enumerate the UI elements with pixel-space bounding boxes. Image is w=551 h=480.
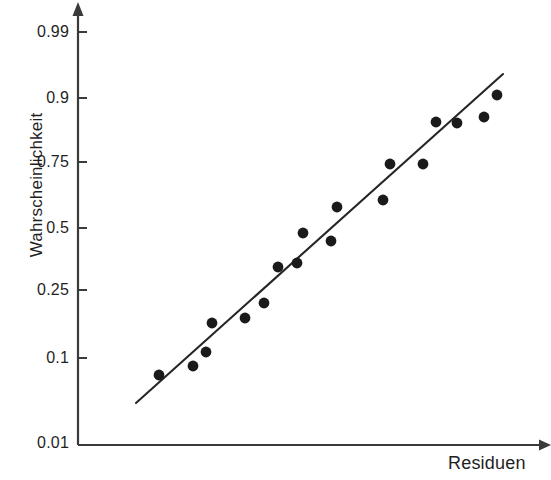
- data-point-2: [201, 347, 212, 358]
- y-tick-label-0.9: 0.9: [46, 90, 69, 106]
- data-point-9: [326, 236, 337, 247]
- y-tick-label-0.01: 0.01: [37, 435, 69, 451]
- data-point-7: [292, 258, 303, 269]
- data-point-11: [378, 195, 389, 206]
- data-point-4: [240, 313, 251, 324]
- data-point-6: [273, 262, 284, 273]
- data-point-15: [452, 118, 463, 129]
- data-point-17: [492, 90, 503, 101]
- data-point-3: [207, 318, 218, 329]
- probability-plot-chart: 0.990.90.750.50.250.10.01 Wahrscheinlich…: [0, 0, 551, 480]
- data-point-10: [332, 202, 343, 213]
- y-tick-label-0.1: 0.1: [46, 350, 69, 366]
- data-point-5: [259, 298, 270, 309]
- y-axis-title: Wahrscheinlichkeit: [27, 70, 47, 300]
- y-tick-label-0.99: 0.99: [37, 24, 69, 40]
- y-tick-label-0.5: 0.5: [46, 220, 69, 236]
- data-point-12: [385, 159, 396, 170]
- data-point-13: [418, 159, 429, 170]
- x-axis-title: Residuen: [448, 453, 526, 474]
- y-axis-arrowhead-icon: [73, 2, 84, 16]
- data-point-0: [154, 370, 165, 381]
- data-point-16: [479, 112, 490, 123]
- plot-area: [0, 0, 551, 480]
- data-point-14: [431, 117, 442, 128]
- x-axis-arrowhead-icon: [539, 440, 551, 451]
- data-point-8: [298, 228, 309, 239]
- data-point-1: [188, 361, 199, 372]
- reference-line: [136, 74, 503, 403]
